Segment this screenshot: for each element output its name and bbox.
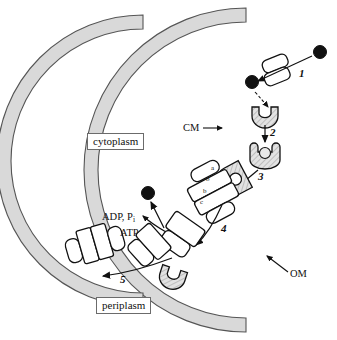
subunit-c-label: c [200,198,203,206]
diagram-svg [0,0,337,340]
adp-pi-text: ADP, P [102,211,133,222]
subunit-a-label: a [211,164,214,172]
porin-channel [261,53,292,88]
om-pointer [267,256,288,272]
binding-protein-released [156,265,187,293]
step-5-number: 5 [120,273,126,285]
substrate-dot-extracellular [314,46,327,59]
periplasm-label: periplasm [96,297,151,314]
substrate-dot-periplasm [246,76,259,89]
figure-canvas: cytoplasm periplasm CM OM 1 2 3 4 5 ADP,… [0,0,337,340]
step-1-number: 1 [299,67,305,79]
cm-label: CM [183,122,199,133]
adp-pi-label: ADP, Pi [102,211,135,224]
abc-transporter [180,149,259,227]
cytoplasm-label: cytoplasm [87,133,144,150]
binding-protein-open [252,107,278,128]
substrate-dot-cytoplasm [142,187,155,200]
step1-to-2-arrow [255,92,268,107]
subunit-b1-label: b [206,175,210,183]
step-4-number: 4 [221,222,227,234]
subunit-b2-label: b [203,187,207,195]
atp-label: ATP [120,227,139,238]
step-3-number: 3 [258,170,264,182]
binding-protein-closed [250,143,280,169]
pi-subscript: i [133,215,135,224]
step-2-number: 2 [270,126,276,138]
om-label: OM [290,268,307,279]
